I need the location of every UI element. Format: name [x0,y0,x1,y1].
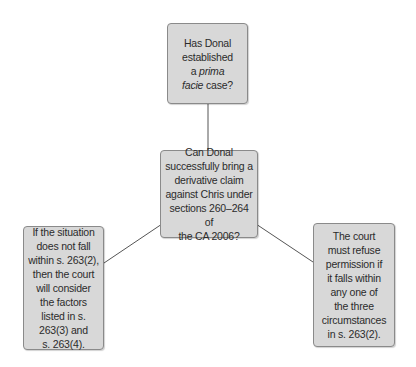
node-left-line: 263(3) and [39,324,88,336]
node-right-line: must refuse [328,244,381,256]
node-left-line: within s. 263(2), [28,254,99,266]
node-s263-2-refusal: The court must refuse permission if it f… [313,223,395,347]
node-left-text: If the situation does not fall within s.… [28,225,99,351]
connector-center-right [256,224,313,262]
connector-center-left [104,224,162,263]
node-top-line: a [191,65,199,77]
node-right-text: The court must refuse permission if it f… [322,229,387,341]
node-left-line: s. 263(4). [42,338,84,350]
node-right-line: any one of [330,286,377,298]
node-center-line: Can Donal [185,146,233,158]
node-left-line: the factors [40,296,87,308]
node-center-line: against Chris under [165,188,252,200]
node-left-line: If the situation [32,226,94,238]
node-top-text: Has Donal established a prima facie case… [182,36,233,92]
node-center-line: derivative claim [174,174,243,186]
node-right-line: the three [334,300,374,312]
node-right-line: circumstances [322,314,387,326]
node-right-line: in s. 263(2). [328,328,381,340]
node-center-text: Can Donal successfully bring a derivativ… [164,145,254,243]
node-top-italic: prima [199,65,224,77]
node-top-italic: facie [182,79,203,91]
node-s263-3-4-factors: If the situation does not fall within s.… [23,226,104,350]
node-left-line: listed in s. [41,310,85,322]
node-left-line: does not fall [36,240,90,252]
node-top-line: Has Donal [184,37,231,49]
node-prima-facie-question: Has Donal established a prima facie case… [167,23,248,104]
node-center-line: the CA 2006? [178,230,239,242]
node-left-line: will consider [36,282,91,294]
node-right-line: it falls within [327,272,381,284]
node-right-line: The court [333,230,376,242]
node-right-line: permission if [326,258,382,270]
node-left-line: then the court [33,268,94,280]
node-top-line: case? [203,79,233,91]
node-center-line: successfully bring a [165,160,253,172]
node-top-line: established [182,51,233,63]
node-central-question: Can Donal successfully bring a derivativ… [160,150,258,238]
node-center-line: sections 260–264 of [169,202,248,228]
